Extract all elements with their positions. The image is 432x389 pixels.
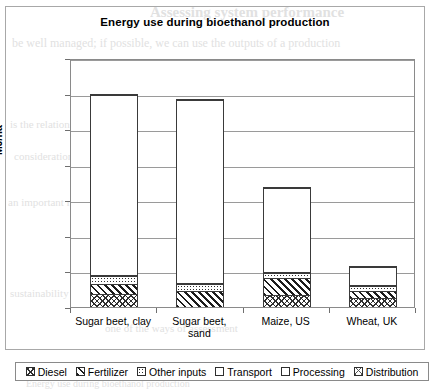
bar-segment-diesel[interactable] — [350, 299, 396, 307]
x-axis-label-0: Sugar beet, clay — [68, 315, 158, 327]
legend-label: Fertilizer — [88, 366, 128, 378]
legend-item-transport[interactable]: Transport — [215, 366, 272, 378]
legend-label: Diesel — [38, 366, 67, 378]
x-axis-tick-mark — [156, 308, 157, 313]
legend-label: Distribution — [366, 366, 419, 378]
legend-item-diesel[interactable]: Diesel — [26, 366, 67, 378]
legend-swatch-icon — [354, 367, 363, 376]
x-axis-label-line: Maize, US — [261, 315, 309, 327]
bar-segment-processing[interactable] — [177, 101, 223, 284]
bar-segment-fertilizer[interactable] — [91, 285, 137, 295]
x-axis-labels: Sugar beet, claySugar beet,sandMaize, US… — [70, 315, 415, 349]
bar-segment-fertilizer[interactable] — [177, 292, 223, 307]
x-axis-tick-mark — [329, 308, 330, 313]
chart-title: Energy use during bioethanol production — [6, 16, 424, 28]
bar-segment-diesel[interactable] — [264, 296, 310, 307]
bar-segment-other-inputs[interactable] — [177, 285, 223, 292]
y-axis-tick-mark — [65, 59, 70, 60]
y-axis-tick-mark — [65, 272, 70, 273]
legend-label: Transport — [227, 366, 272, 378]
x-axis-label-3: Wheat, UK — [327, 315, 417, 327]
legend-swatch-icon — [26, 367, 35, 376]
x-axis-label-line: sand — [188, 327, 211, 339]
legend-swatch-icon — [281, 367, 290, 376]
bar-segment-other-inputs[interactable] — [91, 277, 137, 285]
bar-segment-fertilizer[interactable] — [264, 279, 310, 296]
legend-swatch-icon — [76, 367, 85, 376]
plot-area — [70, 59, 415, 308]
bar-sugar-beet-sand[interactable] — [176, 99, 224, 307]
legend-label: Processing — [293, 366, 345, 378]
bar-segment-processing[interactable] — [91, 96, 137, 275]
x-axis-label-line: Sugar beet, — [172, 315, 226, 327]
legend-label: Other inputs — [149, 366, 206, 378]
bar-maize-us[interactable] — [263, 187, 311, 307]
x-axis-tick-mark — [243, 308, 244, 313]
x-axis-tick-mark — [415, 308, 416, 313]
legend-swatch-icon — [215, 367, 224, 376]
bar-group — [71, 60, 414, 307]
legend-item-fertilizer[interactable]: Fertilizer — [76, 366, 128, 378]
y-axis-tick-mark — [65, 166, 70, 167]
bar-wheat-uk[interactable] — [349, 266, 397, 307]
bar-segment-processing[interactable] — [350, 268, 396, 286]
legend-item-processing[interactable]: Processing — [281, 366, 345, 378]
y-axis-tick-mark — [65, 201, 70, 202]
x-axis-label-line: Sugar beet, clay — [75, 315, 151, 327]
y-axis-tick-mark — [65, 130, 70, 131]
bar-sugar-beet-clay[interactable] — [90, 94, 138, 307]
x-axis-tick-mark — [70, 308, 71, 313]
bar-segment-processing[interactable] — [264, 189, 310, 273]
x-axis-label-2: Maize, US — [241, 315, 331, 327]
x-axis-label-line: Wheat, UK — [346, 315, 397, 327]
bar-segment-diesel[interactable] — [91, 295, 137, 307]
y-axis-tick-mark — [65, 95, 70, 96]
legend-item-distribution[interactable]: Distribution — [354, 366, 419, 378]
chart-container: Energy use during bioethanol production … — [5, 6, 425, 350]
chart-legend: DieselFertilizerOther inputsTransportPro… — [15, 362, 429, 381]
bar-segment-fertilizer[interactable] — [350, 292, 396, 299]
legend-swatch-icon — [137, 367, 146, 376]
y-axis-tick-mark — [65, 237, 70, 238]
x-axis-label-1: Sugar beet,sand — [154, 315, 244, 339]
y-axis-title: MJ/ha — [0, 125, 4, 155]
legend-item-other-inputs[interactable]: Other inputs — [137, 366, 206, 378]
